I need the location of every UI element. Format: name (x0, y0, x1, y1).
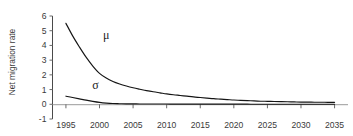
y-axis-tick-labels: 6543210-1 (39, 11, 47, 124)
x-axis-group: 199520002005201020152020202520302035 (53, 104, 349, 130)
y-tick-label: 3 (42, 55, 47, 65)
series-label-sigma: σ (92, 78, 99, 92)
x-tick-label: 2005 (124, 120, 143, 130)
y-tick-label: 1 (42, 85, 47, 95)
y-tick-label: 2 (42, 70, 47, 80)
y-tick-label: 5 (42, 26, 47, 36)
x-tick-label: 2010 (157, 120, 176, 130)
x-tick-label: 2000 (90, 120, 109, 130)
x-tick-label: 2030 (291, 120, 310, 130)
x-tick-label: 2025 (258, 120, 277, 130)
series-annotations-group: μ σ (92, 28, 109, 92)
x-axis-tick-labels: 199520002005201020152020202520302035 (56, 120, 344, 130)
y-axis-title: Net migration rate (7, 28, 17, 95)
x-tick-label: 2020 (224, 120, 243, 130)
y-tick-label: 4 (42, 40, 47, 50)
x-tick-label: 2035 (325, 120, 344, 130)
net-migration-rate-line-chart: 6543210-1 199520002005201020152020202520… (0, 0, 353, 136)
x-tick-label: 1995 (56, 120, 75, 130)
x-tick-label: 2015 (191, 120, 210, 130)
chart-figure: 6543210-1 199520002005201020152020202520… (0, 0, 353, 136)
y-axis-group: 6543210-1 (39, 11, 53, 124)
series-label-mu: μ (103, 28, 109, 42)
y-tick-label: 6 (42, 11, 47, 21)
y-tick-label: -1 (39, 114, 47, 124)
y-tick-label: 0 (42, 99, 47, 109)
